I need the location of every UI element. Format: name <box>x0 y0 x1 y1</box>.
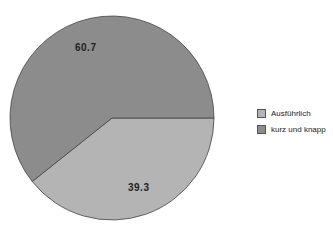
legend-item-ausfuehrlich: Ausführlich <box>257 105 326 121</box>
legend-label: Ausführlich <box>271 109 311 118</box>
legend-item-kurz-und-knapp: kurz und knapp <box>257 121 326 137</box>
legend-label: kurz und knapp <box>271 125 326 134</box>
legend-swatch <box>257 109 266 118</box>
legend-swatch <box>257 125 266 134</box>
chart-legend: Ausführlich kurz und knapp <box>257 105 326 137</box>
slice-value-label-ausfuehrlich: 39.3 <box>128 182 149 193</box>
slice-value-label-kurz-und-knapp: 60.7 <box>75 42 96 53</box>
